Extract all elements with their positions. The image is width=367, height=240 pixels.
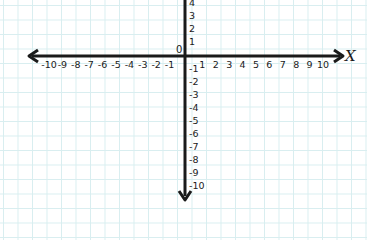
y-tick-label: 4	[189, 0, 195, 8]
x-tick-label: 10	[317, 60, 329, 70]
coordinate-plane	[0, 0, 367, 218]
origin-label: 0	[176, 45, 182, 55]
x-tick-label: 4	[240, 60, 246, 70]
y-tick-label: -10	[189, 181, 205, 191]
x-tick-label: 6	[266, 60, 272, 70]
y-tick-label: 1	[189, 37, 195, 47]
y-tick-label: -9	[189, 168, 198, 178]
y-tick-label: -6	[189, 129, 198, 139]
x-tick-label: -9	[58, 60, 67, 70]
x-tick-label: -10	[41, 60, 57, 70]
x-tick-label: 7	[280, 60, 286, 70]
x-tick-label: -3	[138, 60, 147, 70]
y-tick-label: 2	[189, 24, 195, 34]
y-tick-label: -5	[189, 116, 198, 126]
x-tick-label: 9	[307, 60, 313, 70]
y-tick-label: -7	[189, 142, 198, 152]
y-tick-label: 3	[189, 11, 195, 21]
y-tick-label: -2	[189, 77, 198, 87]
x-tick-label: -7	[84, 60, 93, 70]
x-tick-label: 1	[199, 60, 205, 70]
y-tick-label: -8	[189, 155, 198, 165]
x-tick-label: 3	[226, 60, 232, 70]
x-tick-label: 8	[293, 60, 299, 70]
y-tick-label: -4	[189, 103, 198, 113]
x-tick-label: -4	[125, 60, 134, 70]
x-tick-label: -5	[111, 60, 120, 70]
x-tick-label: -2	[151, 60, 160, 70]
x-tick-label: 2	[213, 60, 219, 70]
y-tick-label: -1	[189, 64, 198, 74]
x-tick-label: 5	[253, 60, 259, 70]
x-tick-label: -6	[98, 60, 107, 70]
x-axis-label: X	[345, 47, 356, 65]
x-tick-label: -8	[71, 60, 80, 70]
y-tick-label: -3	[189, 90, 198, 100]
x-tick-label: -1	[165, 60, 174, 70]
